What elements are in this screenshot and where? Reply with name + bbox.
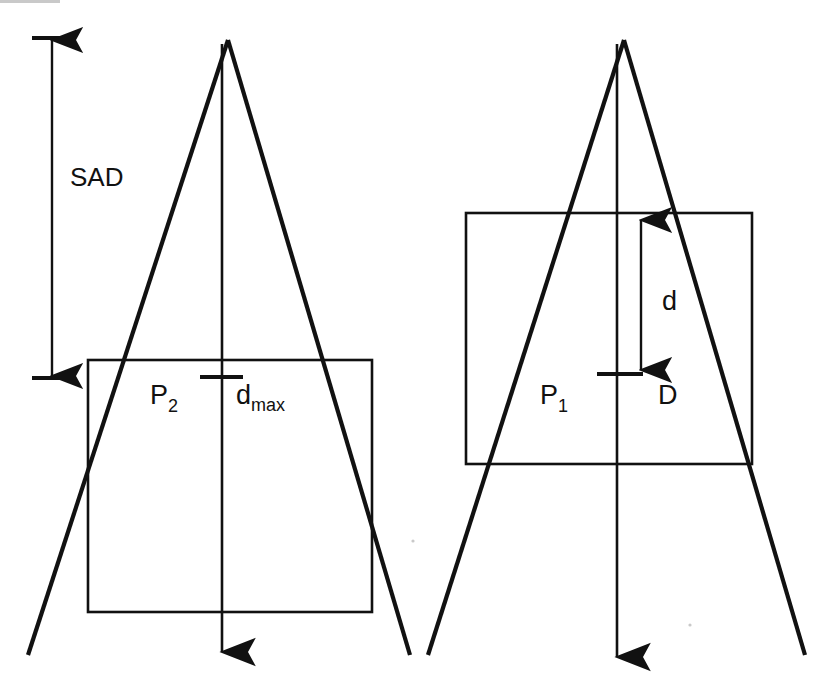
scan-edge-artifact — [0, 0, 60, 3]
left-point-label-subscript: 2 — [168, 396, 178, 416]
beam-geometry-figure: SAD P2 dmax P1 d D — [0, 0, 834, 685]
left-depth-label-subscript: max — [251, 395, 285, 415]
right-point-label-subscript: 1 — [558, 396, 568, 416]
figure-background — [0, 0, 834, 685]
scan-speck — [688, 623, 691, 626]
left-point-label-base: P — [150, 380, 168, 410]
right-depth-distance-label: d — [662, 286, 677, 316]
right-dose-label: D — [658, 380, 678, 410]
sad-label: SAD — [70, 162, 123, 192]
right-point-label-base: P — [540, 380, 558, 410]
scan-speck — [411, 539, 414, 542]
figure-root: SAD P2 dmax P1 d D — [0, 0, 834, 685]
left-depth-label-base: d — [236, 380, 251, 410]
